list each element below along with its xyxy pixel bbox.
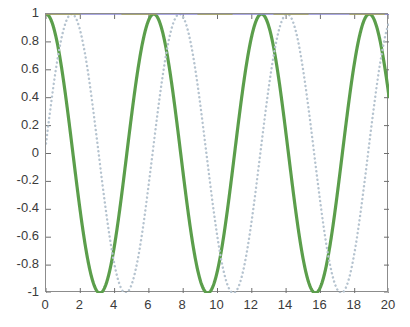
y-axis-tick-label: -0.2 bbox=[17, 173, 39, 186]
x-axis-tick-label: 20 bbox=[368, 298, 408, 311]
y-axis-tick-label: 0.2 bbox=[21, 118, 39, 131]
figure-canvas: -1-0.8-0.6-0.4-0.200.20.40.60.8102468101… bbox=[0, 0, 410, 327]
series-cosine-shifted bbox=[46, 14, 389, 293]
series-cosine bbox=[46, 14, 389, 293]
plot-area bbox=[45, 13, 388, 292]
y-axis-tick-label: 0.4 bbox=[21, 90, 39, 103]
y-axis-tick-label: 0 bbox=[32, 146, 39, 159]
y-axis-tick-label: -0.4 bbox=[17, 201, 39, 214]
y-axis-tick-label: 1 bbox=[32, 6, 39, 19]
y-axis-tick-label: 0.8 bbox=[21, 34, 39, 47]
y-axis-tick-label: -0.8 bbox=[17, 257, 39, 270]
y-axis-tick-label: -0.6 bbox=[17, 229, 39, 242]
plot-svg bbox=[46, 14, 389, 293]
y-axis-tick-label: -1 bbox=[27, 285, 39, 298]
y-axis-tick-label: 0.6 bbox=[21, 62, 39, 75]
